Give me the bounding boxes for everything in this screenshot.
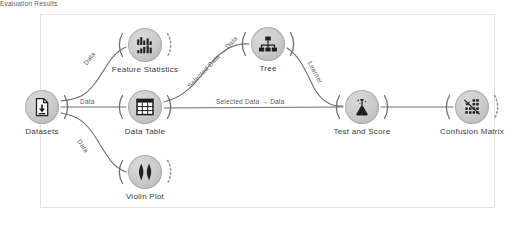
- channel-arc-right-violin-plot[interactable]: [168, 161, 171, 184]
- link-label-data-table-to-test-and-score: Selected Data → Data: [216, 98, 285, 105]
- channel-arc-right-feature-statistics[interactable]: [168, 34, 171, 57]
- widget-caption-violin-plot: Violin Plot: [83, 192, 207, 202]
- workflow-canvas-screen: Datasets Feature Statistics Data Table V…: [0, 0, 526, 228]
- link-label-datasets-to-data-table: Data: [80, 98, 95, 105]
- widget-disc-violin-plot[interactable]: [128, 155, 162, 189]
- confusion-grid-icon: [461, 96, 483, 118]
- link-data-table-to-test-and-score[interactable]: [164, 107, 343, 108]
- widget-caption-confusion-matrix: Confusion Matrix: [410, 127, 526, 137]
- link-datasets-to-violin-plot[interactable]: [61, 113, 126, 172]
- link-label-test-and-score-to-confusion: Evaluation Results: [0, 0, 57, 7]
- channel-arc-left-feature-statistics[interactable]: [119, 34, 122, 57]
- widget-disc-tree[interactable]: [251, 27, 285, 61]
- widget-disc-data-table[interactable]: [128, 90, 162, 124]
- widget-disc-test-and-score[interactable]: [345, 90, 379, 124]
- widget-caption-data-table: Data Table: [83, 127, 207, 137]
- violin-icon: [134, 161, 156, 183]
- widget-caption-feature-statistics: Feature Statistics: [83, 65, 207, 75]
- document-download-icon: [31, 96, 53, 118]
- channel-arc-right-tree[interactable]: [291, 33, 294, 56]
- tree-hierarchy-icon: [257, 33, 279, 55]
- widget-disc-feature-statistics[interactable]: [128, 28, 162, 62]
- widget-disc-confusion-matrix[interactable]: [455, 90, 489, 124]
- channel-arc-right-confusion-matrix[interactable]: [495, 96, 498, 119]
- bar-chart-icon: [134, 34, 156, 56]
- channel-arc-left-violin-plot[interactable]: [119, 161, 122, 184]
- widget-caption-test-and-score: Test and Score: [300, 127, 424, 137]
- widget-disc-datasets[interactable]: [25, 90, 59, 124]
- table-grid-icon: [134, 96, 156, 118]
- channel-arc-right-data-table[interactable]: [168, 96, 171, 119]
- flask-icon: [351, 96, 373, 118]
